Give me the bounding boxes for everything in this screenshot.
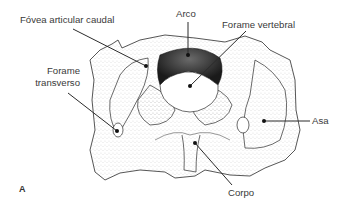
label-fovea-articular-caudal: Fóvea articular caudal bbox=[20, 14, 114, 25]
vertebra-diagram: Fóvea articular caudal Arco Forame verte… bbox=[0, 0, 349, 213]
label-corpo: Corpo bbox=[228, 187, 254, 198]
label-forame-transverso-line2: transverso bbox=[28, 77, 80, 88]
label-forame-transverso-line1: Forame bbox=[44, 65, 80, 76]
label-asa: Asa bbox=[312, 115, 329, 126]
label-arco: Arco bbox=[176, 8, 196, 19]
panel-letter: A bbox=[19, 184, 26, 194]
label-forame-vertebral: Forame vertebral bbox=[222, 19, 295, 30]
vertebra-illustration bbox=[0, 0, 349, 213]
